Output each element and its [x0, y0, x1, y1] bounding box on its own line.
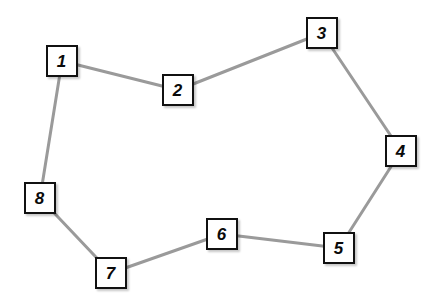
graph-node-label: 6	[217, 226, 227, 243]
graph-node-label: 7	[106, 265, 116, 282]
graph-edge-2-3	[178, 33, 322, 90]
graph-node-label: 2	[173, 82, 183, 99]
graph-edge-8-1	[40, 61, 62, 198]
graph-node-8[interactable]: 8	[24, 182, 56, 214]
graph-edge-1-2	[62, 61, 178, 90]
graph-node-label: 3	[317, 25, 327, 42]
graph-node-4[interactable]: 4	[385, 135, 417, 167]
graph-node-label: 5	[334, 240, 344, 257]
graph-node-label: 8	[35, 190, 45, 207]
diagram-canvas: 12345678	[0, 0, 437, 307]
graph-node-6[interactable]: 6	[206, 218, 238, 250]
graph-edge-5-6	[222, 234, 339, 248]
graph-node-3[interactable]: 3	[306, 17, 338, 49]
graph-node-1[interactable]: 1	[46, 45, 78, 77]
graph-node-5[interactable]: 5	[323, 232, 355, 264]
graph-node-2[interactable]: 2	[162, 74, 194, 106]
graph-node-7[interactable]: 7	[95, 257, 127, 289]
graph-node-label: 4	[396, 143, 406, 160]
graph-node-label: 1	[57, 53, 67, 70]
graph-edge-3-4	[322, 33, 401, 151]
